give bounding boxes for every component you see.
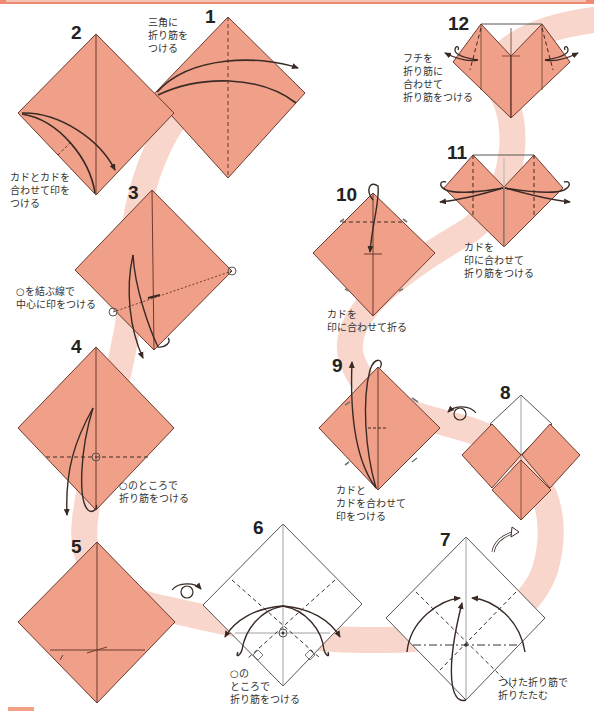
bottom-page-marker [8, 707, 34, 711]
step-10-note: カドを 印に合わせて折る [327, 308, 407, 334]
step-number-11: 11 [447, 143, 467, 162]
step-9-note: カドと カドを合わせて 印をつける [336, 484, 406, 523]
step-1-note: 三角に 折り筋を つける [148, 16, 188, 55]
rotate-arrow-icon [493, 527, 519, 552]
step-2-note: カドとカドを 合わせて印を つける [10, 171, 70, 210]
step-number-6: 6 [253, 518, 264, 537]
step-9-diagram [319, 360, 440, 490]
step-number-12: 12 [448, 14, 469, 33]
step-number-8: 8 [500, 383, 511, 402]
step-number-3: 3 [128, 183, 139, 202]
step-10-diagram [313, 184, 435, 316]
step-4-note: ○のところで 折り筋をつける [119, 479, 189, 505]
origami-diagram: 1 2 3 4 5 6 7 8 9 10 11 12 三角に 折り筋を つける … [0, 0, 594, 711]
step-7-note: つけた折り筋で 折りたたむ [498, 676, 568, 702]
step-8-diagram [462, 395, 580, 520]
step-6-note: ○の ところで 折り筋をつける [230, 667, 300, 706]
step-5-diagram [18, 542, 175, 703]
step-6-diagram [203, 524, 362, 686]
step-3-note: ○を結ぶ線で 中心に印をつける [16, 285, 96, 311]
turn-over-icon [172, 584, 201, 598]
step-number-4: 4 [71, 337, 82, 356]
step-number-1: 1 [205, 7, 216, 26]
step-number-5: 5 [71, 537, 82, 556]
step-number-10: 10 [336, 185, 357, 204]
step-number-7: 7 [440, 530, 451, 549]
step-number-2: 2 [71, 23, 82, 42]
step-12-note: フチを 折り筋に 合わせて 折り筋をつける [403, 52, 473, 104]
diagram-canvas [0, 0, 594, 711]
step-11-note: カドを 印に合わせて 折り筋をつける [464, 241, 534, 280]
step-number-9: 9 [332, 356, 343, 375]
step-3-diagram [75, 190, 236, 358]
